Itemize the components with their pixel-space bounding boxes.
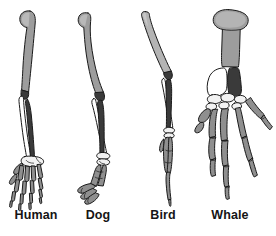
bird-ulna: [166, 79, 172, 132]
specimen-labels-row: Human Dog Bird Whale: [0, 208, 276, 230]
dog-carpals: [97, 152, 110, 165]
label-human: Human: [15, 208, 58, 222]
label-dog: Dog: [86, 208, 111, 222]
homologous-limbs-figure: Human Dog Bird Whale: [0, 0, 276, 236]
bird-carpals: [164, 127, 175, 138]
limb-diagram-svg: [0, 0, 276, 236]
label-bird: Bird: [150, 208, 175, 222]
label-whale: Whale: [211, 208, 248, 222]
